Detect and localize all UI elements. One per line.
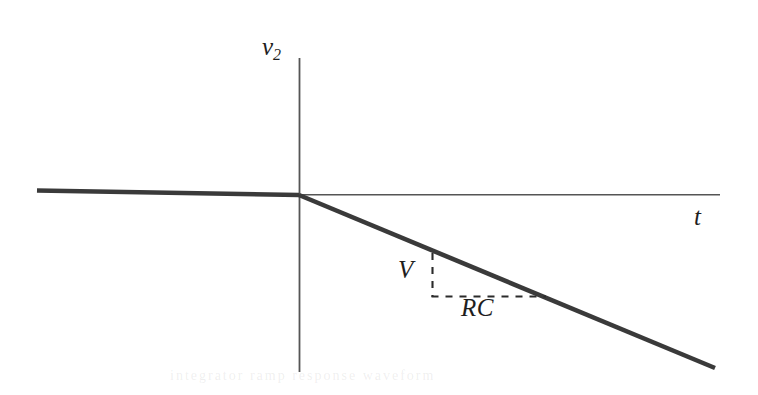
plot-svg: [0, 0, 758, 395]
rise-annotation-label: V: [398, 256, 413, 284]
signal-ramp-segment: [299, 195, 715, 368]
scan-bleed-ghost-text: integrator ramp response waveform: [170, 368, 630, 384]
figure-canvas: v2 t V RC integrator ramp response wavef…: [0, 0, 758, 395]
y-axis-label: v2: [262, 33, 281, 64]
y-axis-label-subscript: 2: [273, 46, 281, 63]
run-annotation-label: RC: [461, 294, 494, 322]
y-axis-label-text: v: [262, 33, 273, 60]
x-axis-label: t: [694, 203, 701, 231]
signal-flat-segment: [37, 191, 299, 196]
